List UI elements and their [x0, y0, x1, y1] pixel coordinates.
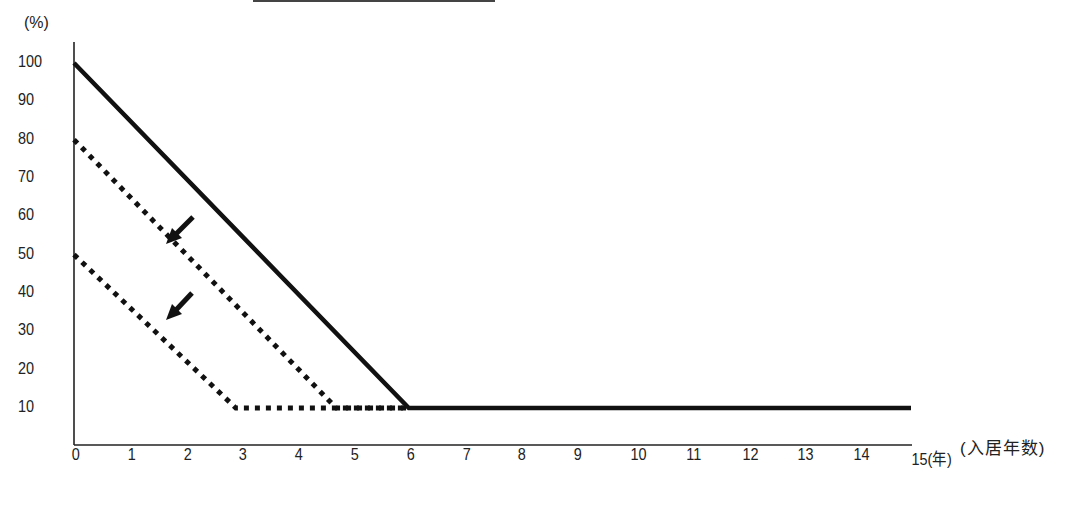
series-lines: [74, 63, 911, 408]
series-dotted-80: [74, 140, 409, 408]
arrow-icon: [176, 293, 192, 310]
axes: [74, 42, 912, 445]
plot-area: [0, 0, 1085, 508]
arrow-icon: [176, 217, 193, 234]
series-dotted-50: [74, 255, 409, 408]
series-solid: [74, 63, 911, 408]
annotation-arrows: [166, 217, 193, 320]
